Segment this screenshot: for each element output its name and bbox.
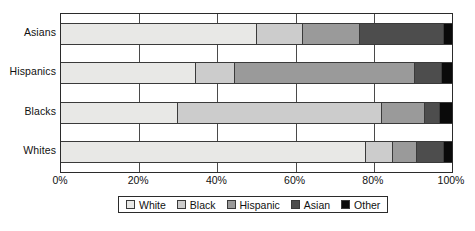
category-label-asians: Asians [0,26,56,38]
category-label-whites: Whites [0,144,56,156]
plot-area [60,13,453,173]
legend-swatch-hispanic-icon [227,200,236,209]
bar-segment-hispanics-black [196,62,235,84]
stacked-bar-chart: AsiansHispanicsBlacksWhites 0%20%40%60%8… [0,0,475,231]
bar-row-whites [61,141,452,163]
legend-item-black[interactable]: Black [177,199,216,211]
legend-label-other: Other [354,199,380,211]
bar-segment-hispanics-asian [415,62,442,84]
legend-label-hispanic: Hispanic [240,199,280,211]
legend-swatch-asian-icon [291,200,300,209]
bar-segment-blacks-black [178,102,381,124]
x-axis-tick-labels: 0%20%40%60%80%100% [0,174,475,190]
bar-segment-whites-hispanic [393,141,416,163]
bar-segment-blacks-other [440,102,452,124]
x-tick-20pct: 20% [128,174,149,186]
category-axis: AsiansHispanicsBlacksWhites [0,0,56,231]
bar-segment-hispanics-white [61,62,196,84]
bar-segment-whites-other [444,141,452,163]
legend-label-white: White [139,199,166,211]
legend-item-hispanic[interactable]: Hispanic [227,199,280,211]
legend-label-asian: Asian [304,199,330,211]
bar-row-blacks [61,102,452,124]
bar-segment-whites-black [366,141,393,163]
x-tick-100pct: 100% [438,174,465,186]
bar-segment-asians-asian [360,23,444,45]
bar-segment-whites-asian [417,141,444,163]
bar-segment-hispanics-hispanic [235,62,415,84]
bar-segment-asians-other [444,23,452,45]
legend-label-black: Black [190,199,216,211]
legend-swatch-black-icon [177,200,186,209]
x-tick-0pct: 0% [52,174,67,186]
chart-legend: WhiteBlackHispanicAsianOther [118,196,388,213]
legend-item-white[interactable]: White [126,199,166,211]
bar-segment-asians-black [257,23,304,45]
bar-row-hispanics [61,62,452,84]
x-tick-80pct: 80% [362,174,383,186]
bar-segment-blacks-white [61,102,178,124]
x-tick-60pct: 60% [284,174,305,186]
category-label-blacks: Blacks [0,105,56,117]
legend-item-asian[interactable]: Asian [291,199,330,211]
legend-swatch-other-icon [341,200,350,209]
bar-segment-blacks-asian [425,102,441,124]
x-tick-40pct: 40% [206,174,227,186]
category-label-hispanics: Hispanics [0,65,56,77]
bar-segment-whites-white [61,141,366,163]
bar-row-asians [61,23,452,45]
bar-segment-asians-hispanic [303,23,360,45]
legend-item-other[interactable]: Other [341,199,380,211]
bar-segment-asians-white [61,23,257,45]
bar-segment-blacks-hispanic [382,102,425,124]
legend-swatch-white-icon [126,200,135,209]
bar-segment-hispanics-other [442,62,452,84]
